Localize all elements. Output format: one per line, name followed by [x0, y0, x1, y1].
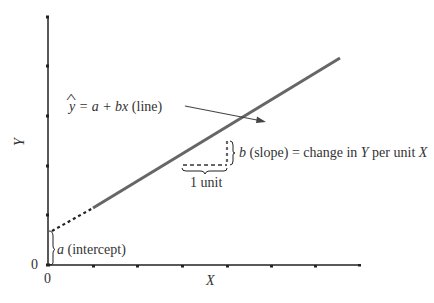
slope-text2: per unit [369, 145, 419, 160]
y-axis-label: Y [13, 138, 27, 146]
slope-text1: (slope) = change in [246, 145, 361, 160]
unit-label: 1 unit [190, 176, 222, 190]
hat-icon: ^ [66, 91, 76, 104]
intercept-label: a (intercept) [57, 243, 126, 257]
slope-symbol: b [239, 145, 246, 160]
intercept-brace [49, 231, 55, 265]
intercept-text: (intercept) [64, 242, 126, 257]
slope-brace [230, 141, 235, 165]
intercept-symbol: a [57, 242, 64, 257]
x-origin-label: 0 [44, 272, 51, 286]
unit-brace [182, 168, 227, 174]
slope-y: Y [361, 145, 369, 160]
equation-suffix: (line) [128, 99, 162, 114]
regression-line-extrapolated [52, 208, 93, 231]
equation-rhs: = a + bx [75, 99, 128, 114]
x-axis-label: X [206, 274, 215, 288]
slope-label: b (slope) = change in Y per unit X [239, 146, 427, 160]
arrowhead-icon [256, 117, 266, 124]
y-origin-label: 0 [31, 258, 38, 272]
line-equation-label: y ^ = a + bx (line) [69, 100, 162, 114]
slope-x: X [419, 145, 428, 160]
